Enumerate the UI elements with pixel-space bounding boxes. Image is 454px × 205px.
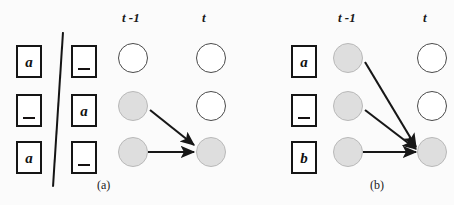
- panel-a-left-cell-3: a: [16, 141, 42, 174]
- panel-a-right-cell-2: a: [71, 94, 97, 127]
- panel-b-cur-node-1: [417, 43, 447, 73]
- panel-a-header-previous: t -1: [122, 10, 140, 26]
- panel-a-right-cell-2-glyph: a: [73, 100, 95, 122]
- blank-underscore-icon: [78, 68, 90, 70]
- panel-a-edge-2-to-3: [150, 110, 194, 145]
- panel-b-prev-node-2: [333, 91, 363, 121]
- blank-underscore-icon: [298, 117, 310, 119]
- panel-a-cur-node-2: [196, 91, 226, 121]
- panel-b-cur-node-2: [417, 91, 447, 121]
- panel-b: t -1 t a b: [227, 0, 454, 205]
- panel-b-cell-3: b: [291, 141, 317, 174]
- panel-b-cur-node-3: [417, 137, 447, 167]
- panel-b-cell-2: [291, 94, 317, 127]
- panel-b-edge-2-to-3: [365, 110, 416, 149]
- panel-a-left-cell-1-glyph: a: [18, 51, 40, 73]
- panel-b-cell-3-glyph: b: [293, 147, 315, 169]
- panel-b-edge-1-to-3: [365, 62, 416, 147]
- panel-b-header-current: t: [423, 10, 427, 26]
- panel-b-cell-1: a: [291, 45, 317, 78]
- panel-b-prev-node-3: [333, 137, 363, 167]
- panel-b-header-previous: t -1: [338, 10, 356, 26]
- panel-a-cur-node-1: [196, 43, 226, 73]
- panel-a-right-cell-1: [71, 45, 97, 78]
- blank-underscore-icon: [23, 117, 35, 119]
- panel-a-left-cell-1: a: [16, 45, 42, 78]
- panel-a: t -1 t a a a: [0, 0, 227, 205]
- panel-a-prev-node-2: [118, 91, 148, 121]
- figure-container: t -1 t a a a: [0, 0, 454, 205]
- panel-b-caption: (b): [370, 178, 384, 193]
- panel-a-cur-node-3: [196, 137, 226, 167]
- panel-a-prev-node-1: [118, 43, 148, 73]
- panel-b-cell-1-glyph: a: [293, 51, 315, 73]
- panel-b-prev-node-1: [333, 43, 363, 73]
- blank-underscore-icon: [78, 164, 90, 166]
- panel-a-divider-line: [52, 32, 64, 187]
- panel-a-left-cell-3-glyph: a: [18, 147, 40, 169]
- panel-a-left-cell-2: [16, 94, 42, 127]
- panel-a-header-current: t: [202, 10, 206, 26]
- panel-a-right-cell-3: [71, 141, 97, 174]
- panel-a-prev-node-3: [118, 137, 148, 167]
- panel-a-caption: (a): [97, 178, 110, 193]
